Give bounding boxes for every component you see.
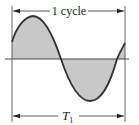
- sine-wave-diagram: 1 cycle T1: [0, 0, 139, 125]
- period-label: T1: [62, 108, 73, 125]
- arrowhead-right-icon: [117, 114, 124, 118]
- arrowhead-left-icon: [13, 114, 20, 118]
- arrowhead-right-icon: [117, 9, 124, 13]
- period-label-subscript: 1: [69, 116, 73, 125]
- cycle-label: 1 cycle: [52, 4, 86, 18]
- positive-half-shading: [12, 16, 61, 59]
- arrowhead-left-icon: [13, 9, 20, 13]
